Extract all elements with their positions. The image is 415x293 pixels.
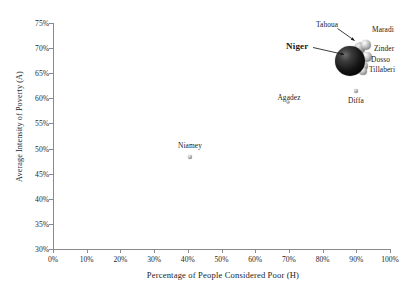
plot-area: 75% 70% 65% 60% 55% 50% 45% 40% 35% 30% … — [53, 23, 390, 249]
x-tick-60 — [255, 249, 256, 253]
y-tick-label: 60% — [35, 94, 49, 103]
bubble-diffa[interactable] — [354, 89, 358, 93]
x-tick-40 — [188, 249, 189, 253]
y-tick-label: 30% — [35, 245, 49, 254]
y-tick-label: 65% — [35, 69, 49, 78]
x-tick-70 — [289, 249, 290, 253]
x-tick-label: 0% — [48, 255, 58, 264]
bubble-maradi[interactable] — [361, 40, 371, 50]
y-tick-label: 35% — [35, 219, 49, 228]
x-tick-50 — [222, 249, 223, 253]
x-tick-80 — [323, 249, 324, 253]
y-axis-title: Average Intensity of Poverty (A) — [15, 12, 24, 242]
x-tick-0 — [53, 249, 54, 253]
bubble-niger[interactable] — [335, 46, 365, 76]
x-tick-label: 60% — [248, 255, 262, 264]
label-niger: Niger — [286, 41, 309, 51]
label-agadez: Agadez — [277, 93, 300, 102]
label-niamey: Niamey — [178, 141, 202, 150]
x-axis-title: Percentage of People Considered Poor (H) — [53, 270, 393, 280]
bubble-niamey[interactable] — [188, 155, 192, 159]
bubble-chart: Average Intensity of Poverty (A) Percent… — [0, 0, 415, 293]
y-tick-label: 50% — [35, 144, 49, 153]
x-tick-label: 80% — [316, 255, 330, 264]
y-tick-label: 55% — [35, 119, 49, 128]
x-tick-label: 50% — [215, 255, 229, 264]
y-tick-label: 40% — [35, 194, 49, 203]
x-tick-100 — [390, 249, 391, 253]
label-maradi: Maradi — [372, 25, 394, 34]
y-tick-label: 45% — [35, 169, 49, 178]
x-tick-90 — [356, 249, 357, 253]
y-tick-label: 75% — [35, 19, 49, 28]
label-tahoua: Tahoua — [316, 20, 338, 29]
x-tick-20 — [120, 249, 121, 253]
x-tick-label: 100% — [381, 255, 399, 264]
x-tick-label: 70% — [282, 255, 296, 264]
x-tick-label: 30% — [147, 255, 161, 264]
x-tick-10 — [87, 249, 88, 253]
x-tick-label: 10% — [80, 255, 94, 264]
label-dosso: Dosso — [371, 55, 390, 64]
label-zinder: Zinder — [374, 44, 394, 53]
x-tick-label: 20% — [113, 255, 127, 264]
x-tick-label: 40% — [181, 255, 195, 264]
y-axis-line — [53, 23, 54, 250]
label-tillaberi: Tillaberi — [369, 65, 395, 74]
x-tick-30 — [154, 249, 155, 253]
x-tick-label: 90% — [349, 255, 363, 264]
y-tick-label: 70% — [35, 44, 49, 53]
label-diffa: Diffa — [348, 96, 364, 105]
